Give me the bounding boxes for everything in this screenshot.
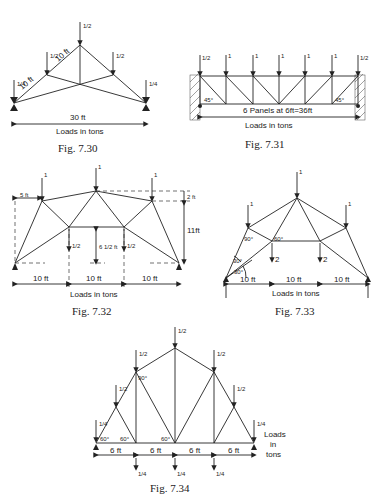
load-label: 1/2 [72, 243, 81, 249]
support-icon [251, 444, 257, 450]
span-label: 6 ft [189, 446, 201, 455]
load-label: 1/2 [178, 328, 187, 334]
load-label: 1/4 [138, 471, 147, 477]
member-length-label: 10 ft [18, 74, 36, 91]
span-label: 10 ft [240, 275, 256, 284]
height-label: 11ft [187, 226, 201, 235]
figure-caption: Fig. 7.31 [245, 138, 284, 150]
load-label: 1/2 [360, 55, 369, 61]
figure-7-33: 1 1 1 2 2 90° 60° 30° 30° 10 ft 10 ft 10… [223, 169, 371, 317]
figure-7-32: 1 1 1 1/2 1/2 5 ft 2 ft 11ft 6 1/2 ft 10… [12, 164, 201, 317]
load-label: 2 [323, 255, 328, 264]
figure-caption: Fig. 7.32 [72, 305, 111, 317]
offset-label: 5 ft [20, 192, 29, 198]
figure-caption: Fig. 7.30 [58, 142, 98, 154]
figure-7-34: 1/2 1/2 1/2 1/2 1/2 1/4 1/4 90° 60° 60° … [93, 327, 286, 494]
span-label: 6 ft [110, 446, 122, 455]
support-icon [356, 104, 360, 108]
load-label: 1/2 [139, 351, 148, 357]
load-label: 1/4 [149, 81, 158, 87]
load-label: 1 [250, 201, 254, 207]
loads-note: Loads in tons [70, 290, 118, 299]
span-label: 6 Panels at 6ft=36ft [243, 106, 313, 115]
angle-label: 30° [233, 258, 243, 264]
load-label: 1 [44, 172, 48, 178]
figure-7-31: 1/2 1 1 1 1 1 1/2 45° 45° 6 Panels at 6f… [190, 53, 369, 150]
load-label: 1 [281, 53, 285, 59]
inner-height-label: 6 1/2 ft [99, 244, 118, 250]
rise-label: 2 ft [187, 194, 196, 200]
support-icon [12, 263, 18, 270]
loads-note: in [270, 440, 276, 449]
load-label: 1 [255, 53, 259, 59]
load-label: 1/4 [257, 421, 266, 427]
load-label: 1/4 [216, 471, 225, 477]
load-label: 1 [154, 172, 158, 178]
load-label: 1/2 [127, 243, 136, 249]
loads-note: tons [266, 450, 281, 459]
load-label: 1/2 [217, 351, 226, 357]
angle-label: 45° [335, 97, 345, 103]
span-label: 6 ft [228, 446, 240, 455]
span-label: 10 ft [142, 274, 158, 283]
span-label: 6 ft [150, 446, 162, 455]
load-label: 1 [299, 169, 303, 175]
support-icon [176, 263, 182, 270]
load-label: 2 [275, 255, 280, 264]
angle-label: 60° [120, 436, 130, 442]
angle-label: 90° [244, 236, 254, 242]
load-label: 1/2 [202, 55, 211, 61]
load-label: 1/4 [177, 471, 186, 477]
figure-caption: Fig. 7.34 [150, 482, 190, 494]
load-label: 1 [307, 53, 311, 59]
load-label: 1 [228, 53, 232, 59]
span-label: 10 ft [86, 274, 102, 283]
load-label: 1 [348, 201, 352, 207]
span-label: 10 ft [286, 275, 302, 284]
span-label: 30 ft [70, 113, 86, 122]
angle-label: 60° [274, 236, 284, 242]
loads-note: Loads in tons [56, 127, 104, 136]
load-label: 1 [98, 164, 102, 170]
figure-7-30: 1/2 1/2 1/2 1/4 1/4 10 ft 10 ft 30 ft Lo… [10, 22, 158, 154]
loads-note: Loads in tons [245, 121, 293, 130]
truss-diagrams-page: 1/2 1/2 1/2 1/4 1/4 10 ft 10 ft 30 ft Lo… [0, 0, 379, 501]
span-label: 10 ft [334, 275, 350, 284]
load-label: 1/2 [116, 53, 125, 59]
support-icon [93, 444, 99, 450]
angle-label: 90° [138, 375, 148, 381]
angle-label: 60° [161, 436, 171, 442]
member-length-label: 10 ft [54, 46, 72, 63]
angle-label: 45° [204, 97, 214, 103]
angle-label: 60° [100, 436, 110, 442]
load-label: 1 [334, 53, 338, 59]
load-label: 1/4 [99, 421, 108, 427]
load-label: 1/2 [119, 386, 128, 392]
span-label: 10 ft [33, 274, 49, 283]
support-icon [198, 104, 202, 108]
figure-caption: Fig. 7.33 [275, 305, 315, 317]
loads-note: Loads [264, 430, 286, 439]
loads-note: Loads in tons [272, 289, 320, 298]
load-label: 1/2 [237, 386, 246, 392]
load-label: 1/2 [83, 23, 92, 29]
